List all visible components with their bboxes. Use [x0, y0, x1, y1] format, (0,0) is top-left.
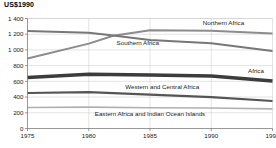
series-label: Western and Central Africa [125, 83, 199, 90]
y-tick-label: 1 400 [8, 15, 24, 22]
y-axis-ticks: 02004006008001 0001 2001 400 [8, 15, 27, 132]
x-tick-label: 1990 [204, 132, 218, 139]
x-tick-label: 1995 [266, 132, 276, 139]
series-label: Africa [248, 67, 264, 74]
x-tick-label: 1985 [143, 132, 157, 139]
series-label: Southern Africa [117, 39, 160, 46]
y-tick-label: 400 [13, 93, 24, 100]
series-label: Northern Africa [203, 19, 245, 26]
line-chart-plot: 02004006008001 0001 2001 400 19751980198… [0, 0, 276, 148]
y-tick-label: 200 [13, 109, 24, 116]
series-labels: Northern AfricaSouthern AfricaAfricaWest… [95, 19, 265, 117]
x-axis-ticks: 19751980198519901995 [21, 129, 276, 140]
y-tick-label: 1 000 [8, 46, 24, 53]
x-tick-label: 1980 [82, 132, 96, 139]
x-tick-label: 1975 [21, 132, 35, 139]
series-label: Eastern Africa and Indian Ocean Islands [95, 110, 205, 117]
y-tick-label: 600 [13, 78, 24, 85]
y-tick-label: 1 200 [8, 30, 24, 37]
y-tick-label: 800 [13, 62, 24, 69]
y-tick-label: 0 [20, 125, 24, 132]
chart-container: US$1990 02004006008001 0001 2001 400 197… [0, 0, 276, 148]
